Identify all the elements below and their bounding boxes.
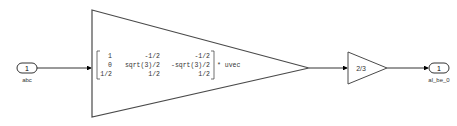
matrix-cell: 1/2 [198,71,210,78]
inport-label: abc [22,77,32,83]
gain-value: 2/3 [356,65,366,72]
matrix-cell: 1/2 [148,71,160,78]
outport-block[interactable]: 1 [429,63,449,73]
matrix-cell: 0 [108,62,112,69]
inport-number: 1 [25,65,29,72]
inport-block[interactable]: 1 [17,63,37,73]
matrix-gain-block[interactable]: 1 -1/2 -1/2 0 sqrt(3)/2 -sqrt(3)/2 1/2 1… [92,10,309,117]
gain-block[interactable]: 2/3 [348,52,387,84]
outport-number: 1 [437,65,441,72]
matrix-cell: -1/2 [144,53,160,60]
matrix-suffix: * uvec [217,62,241,69]
outport-label: al_be_0 [428,77,450,83]
matrix-cell: -1/2 [194,53,210,60]
block-diagram: 1 abc 1 -1/2 -1/2 0 sqrt(3)/2 -sqrt(3)/2… [0,0,457,126]
matrix-cell: 1/2 [100,71,112,78]
matrix-cell: sqrt(3)/2 [125,62,160,69]
matrix-cell: 1 [108,53,112,60]
matrix-cell: -sqrt(3)/2 [171,62,210,69]
